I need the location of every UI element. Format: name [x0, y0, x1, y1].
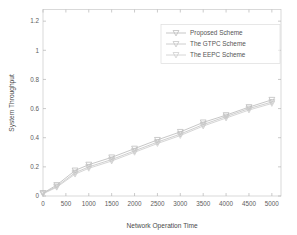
y-tick-label: 0.6: [30, 105, 39, 112]
x-axis-tick-labels: 0500100015002000250030003500400045005000: [41, 200, 279, 207]
series-line: [43, 102, 272, 193]
chart-svg: 0500100015002000250030003500400045005000…: [0, 0, 297, 235]
x-tick-label: 3000: [173, 200, 188, 207]
x-tick-label: 4500: [242, 200, 257, 207]
x-tick-label: 2500: [150, 200, 165, 207]
x-tick-label: 0: [41, 200, 45, 207]
y-tick-label: 0.2: [30, 163, 39, 170]
series-3: [40, 101, 275, 197]
legend[interactable]: Proposed SchemeThe GTPC SchemeThe EEPC S…: [161, 25, 280, 64]
legend-label-3: The EEPC Scheme: [190, 51, 246, 58]
x-tick-label: 2000: [128, 200, 143, 207]
x-tick-label: 1000: [82, 200, 97, 207]
x-tick-label: 1500: [105, 200, 120, 207]
y-tick-label: 0: [35, 192, 39, 199]
legend-label-2: The GTPC Scheme: [190, 40, 246, 47]
x-tick-label: 4000: [219, 200, 234, 207]
y-axis-tick-labels: 00.20.40.60.811.2: [30, 17, 39, 199]
x-tick-label: 5000: [265, 200, 280, 207]
y-tick-label: 1.2: [30, 17, 39, 24]
x-axis-label: Network Operation Time: [126, 222, 197, 230]
series-2: [40, 100, 275, 197]
y-tick-label: 1: [35, 47, 39, 54]
legend-label-1: Proposed Scheme: [190, 29, 243, 37]
series-line: [43, 103, 272, 193]
data-series-group: [40, 97, 275, 196]
y-axis-label: System Throughput: [8, 74, 16, 132]
x-tick-label: 500: [61, 200, 72, 207]
y-tick-label: 0.8: [30, 76, 39, 83]
y-tick-label: 0.4: [30, 134, 39, 141]
figure-canvas: 0500100015002000250030003500400045005000…: [0, 0, 297, 235]
x-tick-label: 3500: [196, 200, 211, 207]
